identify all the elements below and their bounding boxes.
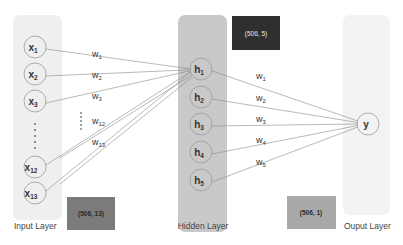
input-shape-label: (506, 13) <box>78 210 104 218</box>
input-weight-label-w13: w13 <box>91 137 106 148</box>
output-layer-panel <box>343 15 390 215</box>
hidden-layer-label: Hidden Layer <box>178 221 229 231</box>
edge-h4-to-y <box>212 126 358 155</box>
edge-h5-to-y <box>212 127 358 182</box>
output-weight-label-w2: w2 <box>255 93 267 104</box>
edge-input-2-to-h1 <box>46 70 191 76</box>
input-weight-label-w12: w12 <box>91 116 106 127</box>
weights-ellipsis <box>80 112 82 130</box>
input-layer-label: Input Layer <box>14 221 57 231</box>
node-label: y <box>363 119 369 130</box>
input-weight-label-w1: w1 <box>91 49 103 60</box>
edge-fan-to-h1 <box>60 77 192 184</box>
edge-input-4-to-h1 <box>46 71 191 165</box>
input-weight-label-w3: w3 <box>91 91 103 102</box>
edge-h2-to-y <box>212 99 358 123</box>
edge-input-1-to-h1 <box>46 49 191 69</box>
edge-h3-to-y <box>212 124 358 126</box>
edge-h1-to-y <box>212 71 358 121</box>
neural-network-diagram: (506, 5) (506, 13) (506, 1) x1x2x3x12x13… <box>0 0 403 245</box>
edge-input-5-to-h1 <box>46 72 191 191</box>
hidden-shape-label: (506, 5) <box>245 30 267 38</box>
output-weight-label-w1: w1 <box>255 71 267 82</box>
edge-input-3-to-h1 <box>46 71 191 103</box>
output-shape-label: (506, 1) <box>300 209 322 217</box>
output-weight-label-w3: w3 <box>255 114 267 125</box>
output-layer-label: Ouput Layer <box>344 221 391 231</box>
input-layer-panel <box>13 15 62 220</box>
edge-fan-to-h1 <box>60 75 192 158</box>
output-weight-label-w4: w4 <box>255 135 267 146</box>
input-weight-label-w2: w2 <box>91 70 103 81</box>
output-weight-label-w5: w5 <box>255 157 267 168</box>
